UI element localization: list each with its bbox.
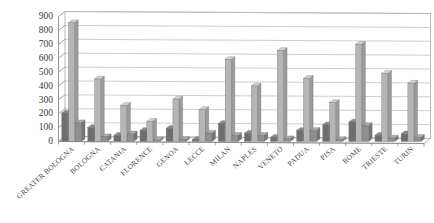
y-tick-label-900: 900 xyxy=(39,11,54,21)
bar-4-1 xyxy=(173,96,183,141)
category-label-4: GENOA xyxy=(154,144,180,169)
y-axis-tick-labels: 0100200300400500600700800900 xyxy=(39,11,54,146)
y-tick-label-200: 200 xyxy=(39,108,54,118)
tick-connector-900 xyxy=(59,12,66,17)
category-label-9: PADUA xyxy=(286,144,312,168)
bar-6-1 xyxy=(225,57,235,142)
y-tick-label-600: 600 xyxy=(39,53,54,63)
bar-2-2 xyxy=(128,131,138,141)
bar-7-1 xyxy=(251,83,261,141)
bar-chart: 0100200300400500600700800900 GREATER BOL… xyxy=(0,0,434,223)
bar-8-1 xyxy=(277,48,287,142)
bar-0-2 xyxy=(75,120,85,142)
category-label-11: ROME xyxy=(341,144,364,166)
y-tick-label-400: 400 xyxy=(39,81,54,91)
category-label-13: TURIN xyxy=(392,144,416,167)
category-label-6: MILAN xyxy=(208,144,233,168)
chart-canvas: 0100200300400500600700800900 GREATER BOL… xyxy=(0,0,434,223)
category-label-7: NAPLES xyxy=(231,144,259,170)
x-axis-category-labels: GREATER BOLOGNABOLOGNACATANIAFLORENCEGEN… xyxy=(15,144,416,201)
plot-back-wall xyxy=(65,12,431,139)
y-tick-label-0: 0 xyxy=(48,136,53,146)
category-label-8: VENETO xyxy=(256,144,285,171)
bar-10-1 xyxy=(330,100,340,142)
category-label-10: PISA xyxy=(318,144,337,162)
tick-connector-600 xyxy=(59,53,66,58)
bar-12-1 xyxy=(382,71,392,142)
y-tick-label-500: 500 xyxy=(39,67,54,77)
bar-13-1 xyxy=(408,80,418,141)
bar-9-2 xyxy=(310,128,320,142)
y-tick-label-100: 100 xyxy=(39,122,54,132)
y-tick-label-300: 300 xyxy=(39,95,54,105)
y-tick-label-800: 800 xyxy=(39,25,54,35)
category-label-0: GREATER BOLOGNA xyxy=(15,144,77,201)
tick-connector-300 xyxy=(59,95,66,100)
bar-11-2 xyxy=(362,123,372,142)
tick-connector-500 xyxy=(59,67,66,72)
category-label-12: TRIESTE xyxy=(360,144,389,172)
tick-connector-700 xyxy=(59,39,66,44)
bar-1-1 xyxy=(95,76,105,141)
bar-3-1 xyxy=(147,119,157,142)
category-label-5: LECCE xyxy=(182,144,206,167)
tick-connector-800 xyxy=(59,25,66,30)
bar-5-2 xyxy=(206,130,216,141)
tick-connector-400 xyxy=(59,81,66,86)
y-tick-label-700: 700 xyxy=(39,39,54,49)
